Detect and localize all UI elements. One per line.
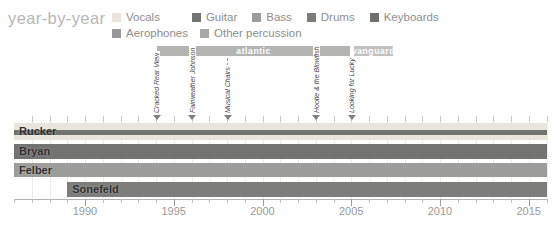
record-label-bar: atlantic xyxy=(156,45,351,57)
other-percussion-swatch-icon xyxy=(200,29,209,38)
top-tick xyxy=(32,116,33,122)
record-label-bar: vanguard xyxy=(353,45,394,57)
top-tick xyxy=(476,116,477,122)
x-axis-minor-tick xyxy=(227,199,228,203)
x-axis-minor-tick xyxy=(387,199,388,203)
legend-item-label: Other percussion xyxy=(214,27,302,39)
instrument-segment-guitar xyxy=(14,144,547,159)
legend: VocalsGuitarBassDrumsKeyboardsAerophones… xyxy=(112,9,454,41)
legend-item: Guitar xyxy=(192,11,237,23)
x-axis-minor-tick xyxy=(121,199,122,203)
album-arrow-icon xyxy=(348,115,356,120)
album-title-label: Hootie & the Blowfish xyxy=(310,57,323,115)
top-tick xyxy=(440,116,441,122)
x-axis-minor-tick xyxy=(245,199,246,203)
top-tick xyxy=(547,116,548,122)
x-axis-minor-tick xyxy=(50,199,51,203)
legend-item: Drums xyxy=(307,11,355,23)
x-axis-minor-tick xyxy=(298,199,299,203)
x-axis-year-label: 1995 xyxy=(154,205,194,217)
legend-item-label: Drums xyxy=(321,11,355,23)
x-axis-minor-tick xyxy=(493,199,494,203)
x-axis-minor-tick xyxy=(334,199,335,203)
x-axis-year-label: 2005 xyxy=(331,205,371,217)
x-axis-minor-tick xyxy=(32,199,33,203)
x-axis-year-label: 2000 xyxy=(243,205,283,217)
instrument-segment-drums xyxy=(67,182,546,197)
album-title-label: Fairweather Johnson xyxy=(186,57,199,115)
legend-item: Other percussion xyxy=(200,27,302,39)
top-tick xyxy=(280,116,281,122)
member-name-label: Felber xyxy=(19,164,52,176)
album-arrow-icon xyxy=(153,115,161,120)
top-tick xyxy=(263,116,264,122)
legend-item-label: Bass xyxy=(266,11,292,23)
vocals-swatch-icon xyxy=(112,13,121,22)
x-axis-minor-tick xyxy=(369,199,370,203)
top-tick xyxy=(334,116,335,122)
legend-item: Keyboards xyxy=(370,11,439,23)
top-tick xyxy=(369,116,370,122)
top-tick xyxy=(387,116,388,122)
drums-swatch-icon xyxy=(307,13,316,22)
top-tick xyxy=(458,116,459,122)
bass-swatch-icon xyxy=(252,13,261,22)
member-bar-sonefeld xyxy=(67,182,546,197)
x-axis-minor-tick xyxy=(476,199,477,203)
legend-row: AerophonesOther percussion xyxy=(112,25,454,41)
x-axis-year-label: 1990 xyxy=(65,205,105,217)
x-axis-minor-tick xyxy=(422,199,423,203)
x-axis-minor-tick xyxy=(103,199,104,203)
instrument-segment-vocals xyxy=(14,135,547,140)
legend-item-label: Vocals xyxy=(126,11,160,23)
x-axis-minor-tick xyxy=(280,199,281,203)
top-tick xyxy=(298,116,299,122)
top-tick xyxy=(174,116,175,122)
x-axis-minor-tick xyxy=(316,199,317,203)
x-axis-minor-tick xyxy=(458,199,459,203)
keyboards-swatch-icon xyxy=(370,13,379,22)
x-axis-minor-tick xyxy=(547,199,548,203)
x-axis-year-label: 2015 xyxy=(509,205,549,217)
chart-title: year-by-year xyxy=(8,9,105,28)
top-tick xyxy=(529,116,530,122)
album-title-label: Musical Chairs xyxy=(221,57,234,115)
legend-item: Aerophones xyxy=(112,27,188,39)
album-arrow-icon xyxy=(312,115,320,120)
legend-row: VocalsGuitarBassDrumsKeyboards xyxy=(112,9,454,25)
member-bar-felber xyxy=(14,163,547,177)
x-axis-year-label: 2010 xyxy=(420,205,460,217)
album-title-label: Cracked Rear View xyxy=(150,57,163,115)
x-axis-minor-tick xyxy=(192,199,193,203)
member-bar-bryan xyxy=(14,144,547,159)
member-name-label: Rucker xyxy=(19,125,56,137)
guitar-swatch-icon xyxy=(192,13,201,22)
year-gridline xyxy=(547,116,548,199)
member-bar-rucker xyxy=(14,123,547,140)
top-tick xyxy=(405,116,406,122)
aerophones-swatch-icon xyxy=(112,29,121,38)
x-axis-minor-tick xyxy=(511,199,512,203)
top-tick xyxy=(85,116,86,122)
top-tick xyxy=(67,116,68,122)
top-tick xyxy=(50,116,51,122)
top-tick xyxy=(493,116,494,122)
legend-item: Bass xyxy=(252,11,292,23)
top-tick xyxy=(103,116,104,122)
legend-item: Vocals xyxy=(112,11,160,23)
x-axis-minor-tick xyxy=(67,199,68,203)
top-tick xyxy=(121,116,122,122)
legend-item-label: Guitar xyxy=(206,11,237,23)
x-axis-minor-tick xyxy=(156,199,157,203)
x-axis-minor-tick xyxy=(209,199,210,203)
top-tick xyxy=(245,116,246,122)
x-axis-minor-tick xyxy=(405,199,406,203)
album-arrow-icon xyxy=(188,115,196,120)
instrument-segment-bass xyxy=(14,163,547,177)
instrument-segment-vocals xyxy=(14,123,547,130)
top-tick xyxy=(138,116,139,122)
top-tick xyxy=(422,116,423,122)
band-timeline-chart: year-by-year VocalsGuitarBassDrumsKeyboa… xyxy=(0,0,555,228)
top-tick xyxy=(209,116,210,122)
top-tick xyxy=(511,116,512,122)
